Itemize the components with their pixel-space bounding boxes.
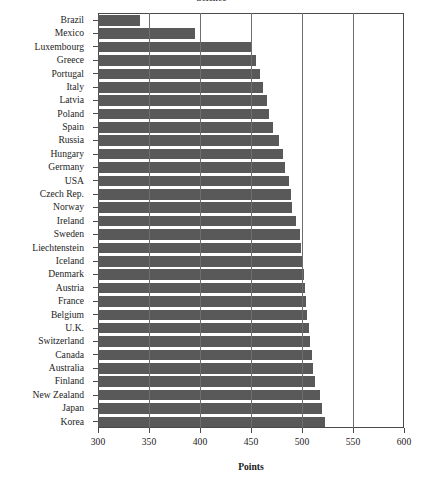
bar <box>98 269 304 280</box>
chart-title: Science <box>0 0 423 2</box>
bar <box>98 390 320 401</box>
bar <box>98 310 307 321</box>
category-tick <box>93 301 98 302</box>
bar <box>98 28 195 39</box>
category-tick <box>93 274 98 275</box>
category-tick <box>93 368 98 369</box>
value-tick-label: 350 <box>129 436 169 447</box>
category-tick <box>93 207 98 208</box>
bar <box>98 363 313 374</box>
bar <box>98 323 309 334</box>
category-axis-labels: BrazilMexicoLuxembourgGreecePortugalItal… <box>0 13 88 428</box>
value-tick <box>251 428 252 433</box>
value-tick <box>149 428 150 433</box>
gridline <box>251 13 252 428</box>
category-tick <box>93 287 98 288</box>
category-tick <box>93 314 98 315</box>
category-tick <box>93 261 98 262</box>
category-tick <box>93 167 98 168</box>
science-bar-chart: Science BrazilMexicoLuxembourgGreecePort… <box>0 0 423 484</box>
category-tick <box>93 247 98 248</box>
category-tick <box>93 46 98 47</box>
bar <box>98 229 300 240</box>
category-tick <box>93 100 98 101</box>
bar <box>98 82 263 93</box>
value-tick <box>404 428 405 433</box>
bar <box>98 162 285 173</box>
category-tick <box>93 408 98 409</box>
value-tick-label: 500 <box>282 436 322 447</box>
category-tick <box>93 113 98 114</box>
bar <box>98 149 283 160</box>
bar <box>98 216 296 227</box>
value-tick-label: 600 <box>384 436 423 447</box>
bar <box>98 376 315 387</box>
value-tick <box>353 428 354 433</box>
category-tick <box>93 421 98 422</box>
category-tick <box>93 73 98 74</box>
gridline <box>149 13 150 428</box>
x-axis-title: Points <box>98 461 404 472</box>
bar <box>98 336 310 347</box>
category-tick <box>93 140 98 141</box>
value-tick-label: 300 <box>78 436 118 447</box>
value-tick <box>200 428 201 433</box>
value-tick <box>98 428 99 433</box>
value-tick-label: 550 <box>333 436 373 447</box>
gridline <box>200 13 201 428</box>
category-label: Korea <box>61 415 84 430</box>
bar <box>98 189 291 200</box>
category-tick <box>93 221 98 222</box>
gridline <box>353 13 354 428</box>
category-tick <box>93 354 98 355</box>
category-tick <box>93 194 98 195</box>
bar <box>98 122 273 133</box>
category-tick <box>93 341 98 342</box>
category-tick <box>93 180 98 181</box>
bar <box>98 202 292 213</box>
category-tick <box>93 381 98 382</box>
category-tick <box>93 328 98 329</box>
bar <box>98 283 305 294</box>
value-tick-label: 400 <box>180 436 220 447</box>
category-tick <box>93 234 98 235</box>
value-tick <box>302 428 303 433</box>
category-tick <box>93 87 98 88</box>
bar <box>98 15 140 26</box>
category-tick <box>93 154 98 155</box>
bar <box>98 42 251 53</box>
bar <box>98 176 289 187</box>
bar <box>98 69 260 80</box>
bar <box>98 350 312 361</box>
value-tick-label: 450 <box>231 436 271 447</box>
bar <box>98 296 306 307</box>
category-tick <box>93 60 98 61</box>
category-tick <box>93 395 98 396</box>
bar <box>98 417 325 428</box>
bar <box>98 403 322 414</box>
plot-area <box>98 13 404 428</box>
category-tick <box>93 127 98 128</box>
category-tick <box>93 33 98 34</box>
bar <box>98 95 267 106</box>
bar <box>98 109 269 120</box>
category-tick <box>93 20 98 21</box>
bar <box>98 55 256 66</box>
gridline <box>302 13 303 428</box>
